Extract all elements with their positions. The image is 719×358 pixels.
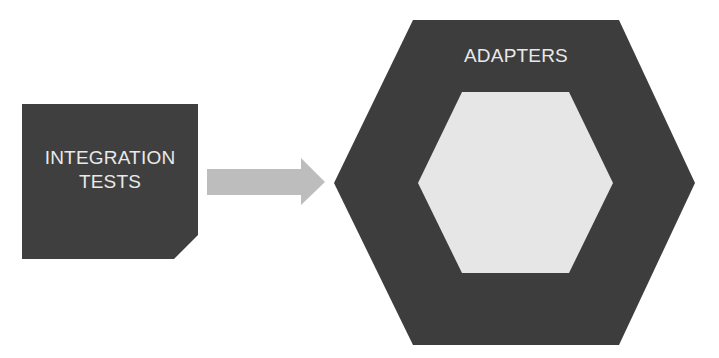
- integration-tests-label: INTEGRATION TESTS: [22, 146, 198, 194]
- integration-tests-label-line1: INTEGRATION: [22, 146, 198, 170]
- arrow-right-icon: [207, 158, 325, 205]
- adapters-label: ADAPTERS: [413, 44, 619, 68]
- integration-tests-label-line2: TESTS: [22, 170, 198, 194]
